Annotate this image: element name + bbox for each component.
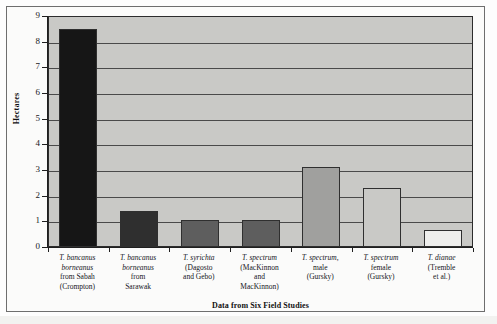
x-axis-title: Data from Six Field Studies <box>48 301 473 310</box>
x-axis-tick <box>352 248 353 252</box>
category-label-line: MacKinnon) <box>229 282 290 292</box>
category-label-line: borneanus <box>47 263 108 273</box>
category-label: T. spectrumfemale(Gursky) <box>351 253 412 282</box>
category-label-line: (Gursky) <box>351 272 412 282</box>
y-axis-tick-label: 4 <box>18 138 40 148</box>
figure-container: Hectares 0123456789 T. bancanusborneanus… <box>0 0 497 324</box>
category-label-line: male <box>290 263 351 273</box>
category-label: T. spectrum,male(Gursky) <box>290 253 351 282</box>
category-label-line: T. spectrum, <box>290 253 351 263</box>
y-axis-tick-label: 1 <box>18 215 40 225</box>
category-label-line: T. spectrum <box>351 253 412 263</box>
y-axis-tick-label: 2 <box>18 190 40 200</box>
category-label: T. bancanusborneanusfromSarawak <box>108 253 169 291</box>
category-label-line: borneanus <box>108 263 169 273</box>
bar <box>59 29 97 247</box>
y-axis-tick-labels: 0123456789 <box>12 0 40 324</box>
x-axis-tick <box>412 248 413 252</box>
category-label-line: Sarawak <box>108 282 169 292</box>
category-label: T. spectrum(MacKinnonandMacKinnon) <box>229 253 290 291</box>
x-axis-tick <box>473 248 474 252</box>
category-label-line: (Gursky) <box>290 272 351 282</box>
category-label-line: (MacKinnon <box>229 263 290 273</box>
category-label-line: T. bancanus <box>108 253 169 263</box>
category-label-line: (Tremble <box>411 263 472 273</box>
bar-series <box>48 16 473 247</box>
x-axis-line <box>47 247 473 248</box>
bar <box>302 167 340 247</box>
category-label-line: T. dianae <box>411 253 472 263</box>
x-axis-tick <box>291 248 292 252</box>
category-label: T. syrichta(Dagostoand Gebo) <box>168 253 229 282</box>
plot-area-wrapper <box>48 16 473 247</box>
category-label: T. dianae(Trembleet al.) <box>411 253 472 282</box>
x-axis-tick <box>48 248 49 252</box>
bar <box>363 188 401 247</box>
bar <box>424 230 462 247</box>
y-axis-tick-label: 0 <box>18 241 40 251</box>
y-axis-tick-label: 8 <box>18 36 40 46</box>
category-label-line: T. syrichta <box>168 253 229 263</box>
y-axis-tick-label: 3 <box>18 164 40 174</box>
category-label-line: from Sabah <box>47 272 108 282</box>
bar <box>242 220 280 247</box>
category-label-line: female <box>351 263 412 273</box>
category-label-line: from <box>108 272 169 282</box>
x-axis-category-labels: T. bancanusborneanusfrom Sabah(Crompton)… <box>47 253 473 299</box>
category-label-line: (Crompton) <box>47 282 108 292</box>
category-label-line: T. bancanus <box>47 253 108 263</box>
y-axis-tick-label: 9 <box>18 10 40 20</box>
y-axis-tick-label: 7 <box>18 61 40 71</box>
bar <box>181 220 219 247</box>
x-axis-tick <box>169 248 170 252</box>
category-label-line: et al.) <box>411 272 472 282</box>
x-axis-tick <box>230 248 231 252</box>
scan-edge <box>0 316 497 324</box>
category-label-line: and <box>229 272 290 282</box>
category-label: T. bancanusborneanusfrom Sabah(Crompton) <box>47 253 108 291</box>
category-label-line: (Dagosto <box>168 263 229 273</box>
y-axis-tick-label: 6 <box>18 87 40 97</box>
x-axis-tick <box>109 248 110 252</box>
category-label-line: and Gebo) <box>168 272 229 282</box>
bar <box>120 211 158 247</box>
category-label-line: T. spectrum <box>229 253 290 263</box>
y-axis-tick-label: 5 <box>18 113 40 123</box>
